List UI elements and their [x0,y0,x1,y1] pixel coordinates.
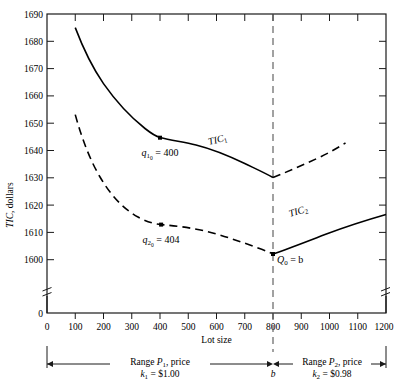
x-tick-label: 200 [96,322,111,332]
tic2-breakpoint-marker [271,252,275,256]
svg-text:k1 = $1.00: k1 = $1.00 [140,369,179,381]
x-tick-label: 1200 [375,322,394,332]
chart-svg: 1690 1680 1670 1660 1650 1640 1630 1620 … [0,0,402,385]
y-tick-label: 1650 [24,119,43,129]
y-tick-label: 1610 [24,228,43,238]
x-tick-labels: 0 100 200 300 400 500 600 700 800 900 10… [45,322,394,332]
tic1-minimum-value: = 400 [153,147,179,158]
x-tick-label: 1100 [348,322,367,332]
y-axis-title: TIC, dollars [5,182,15,228]
x-tick-label: 400 [153,322,168,332]
x-tick-label: 1000 [320,322,339,332]
range-2-prefix: Range [302,357,329,367]
x-tick-label: 0 [45,322,50,332]
range-1-suffix: , price [166,357,190,367]
y-tick-label: 1670 [24,64,43,74]
y-tick-label-zero: 0 [38,309,43,319]
tic2-minimum-marker [159,223,163,227]
x-tick-label: 700 [238,322,253,332]
x-tick-label: 100 [68,322,83,332]
svg-text:k2 = $0.98: k2 = $0.98 [312,369,351,381]
y-tick-label: 1680 [24,37,43,47]
y-tick-label: 1630 [24,173,43,183]
range-1-label: Range P1, price k1 = $1.00 [110,356,210,381]
breakpoint-value: = b [288,254,304,265]
range-1-k-value: = $1.00 [148,369,180,379]
range-2-label: Range P2, price k2 = $0.98 [293,356,371,381]
y-tick-label: 1640 [24,146,43,156]
svg-text:TIC, dollars: TIC, dollars [5,182,15,228]
y-tick-label: 1620 [24,201,43,211]
range-1-prefix: Range [130,357,157,367]
plot-frame [47,14,386,313]
range-2-k-value: = $0.98 [320,369,352,379]
chart-figure: 1690 1680 1670 1660 1650 1640 1630 1620 … [0,0,402,385]
y-tick-label: 1690 [24,10,43,20]
tic2-minimum-value: = 404 [154,234,180,245]
range-2-suffix: , price [338,357,362,367]
x-tick-label: 500 [181,322,196,332]
y-tick-labels: 1690 1680 1670 1660 1650 1640 1630 1620 … [24,10,43,319]
x-axis-ticks [75,313,358,319]
x-tick-label: 300 [125,322,140,332]
x-tick-label: 900 [294,322,309,332]
y-tick-label: 1660 [24,91,43,101]
y-tick-label: 1600 [24,255,43,265]
tic1-minimum-marker [158,136,162,140]
x-axis-title: Lot size [201,335,231,345]
x-tick-label: 600 [209,322,224,332]
vline-label-b: b [271,369,276,379]
